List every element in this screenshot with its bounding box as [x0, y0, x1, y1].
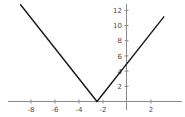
chart-container: -8 -6 -4 -2 2 2 4 6 8 10 12 [0, 0, 185, 117]
plot-background [0, 0, 185, 117]
x-tick-label: -2 [100, 106, 107, 114]
y-tick-label: 12 [113, 7, 122, 15]
x-tick-label: -8 [28, 106, 35, 114]
y-tick-label: 6 [118, 53, 123, 61]
x-tick-label: -4 [76, 106, 84, 114]
y-tick-label: 8 [118, 37, 122, 45]
absolute-value-plot: -8 -6 -4 -2 2 2 4 6 8 10 12 [0, 0, 185, 117]
x-tick-label: 2 [149, 106, 153, 114]
y-tick-label: 10 [113, 22, 122, 30]
x-tick-label: -6 [52, 106, 60, 114]
y-tick-label: 2 [118, 83, 122, 91]
